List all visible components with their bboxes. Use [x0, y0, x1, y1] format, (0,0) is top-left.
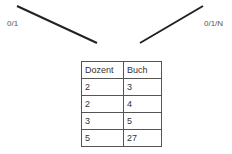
- table-row: 3 5: [82, 113, 162, 130]
- cell-buch: 27: [124, 130, 162, 147]
- relation-table: Dozent Buch 2 3 2 4 3 5 5 27: [81, 61, 162, 147]
- table-header-row: Dozent Buch: [82, 62, 162, 79]
- cell-dozent: 2: [82, 79, 124, 96]
- left-connector-line: [17, 6, 97, 43]
- cell-dozent: 2: [82, 96, 124, 113]
- table-row: 2 3: [82, 79, 162, 96]
- table-row: 5 27: [82, 130, 162, 147]
- cell-buch: 4: [124, 96, 162, 113]
- cell-dozent: 3: [82, 113, 124, 130]
- table-row: 2 4: [82, 96, 162, 113]
- left-cardinality-label: 0/1: [7, 19, 18, 29]
- cell-buch: 3: [124, 79, 162, 96]
- right-cardinality-label: 0/1/N: [204, 19, 223, 29]
- cell-dozent: 5: [82, 130, 124, 147]
- column-header-buch: Buch: [124, 62, 162, 79]
- column-header-dozent: Dozent: [82, 62, 124, 79]
- right-connector-line: [140, 6, 203, 43]
- cell-buch: 5: [124, 113, 162, 130]
- connector-lines: [0, 0, 232, 60]
